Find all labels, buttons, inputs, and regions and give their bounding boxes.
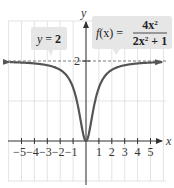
y-axis-label: y: [80, 6, 87, 20]
asymptote-eq: =: [42, 32, 55, 46]
svg-text:f(x) =: f(x) =: [96, 26, 123, 40]
x-tick-label: −4: [26, 145, 39, 159]
x-tick-label: 3: [122, 145, 128, 159]
x-tick-label: −3: [39, 145, 52, 159]
svg-text:y = 2: y = 2: [36, 32, 61, 46]
denominator-constant: + 1: [148, 34, 167, 48]
x-tick-label: 2: [109, 145, 115, 159]
numerator-exponent: 2: [154, 19, 158, 27]
x-tick-label: −5: [13, 145, 26, 159]
denominator-term: 2x: [133, 34, 145, 48]
x-tick-labels: −5−4−3−2−112345: [13, 145, 153, 159]
asymptote-callout: y = 2: [31, 27, 67, 56]
x-tick-label: 1: [96, 145, 102, 159]
function-args: (x) =: [99, 26, 123, 40]
function-graph: −5−4−3−2−112345 2 x y y = 2 f(x) = 4x2 2…: [0, 0, 174, 188]
x-tick-label: −2: [52, 145, 65, 159]
x-axis-label: x: [165, 134, 172, 148]
svg-text:2x2 + 1: 2x2 + 1: [133, 34, 167, 48]
y-tick-label-2: 2: [74, 54, 80, 68]
x-tick-label: −1: [65, 145, 78, 159]
function-callout: f(x) = 4x2 2x2 + 1: [92, 16, 172, 55]
x-tick-label: 4: [135, 145, 141, 159]
numerator: 4x: [142, 18, 154, 32]
asymptote-value: 2: [55, 32, 61, 46]
x-tick-label: 5: [148, 145, 154, 159]
